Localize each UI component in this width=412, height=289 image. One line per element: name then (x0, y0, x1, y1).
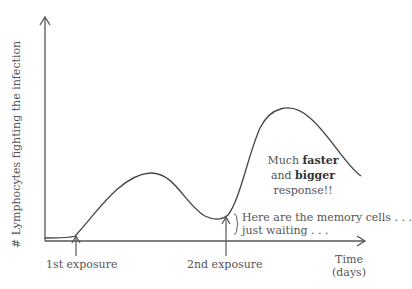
x-axis-label-time: Time (332, 253, 366, 266)
response-text-bigger: bigger (295, 169, 335, 182)
memory-cells-annotation: Here are the memory cells . . . just wai… (242, 211, 412, 237)
first-exposure-label: 1st exposure (46, 258, 117, 271)
second-exposure-label: 2nd exposure (187, 258, 263, 271)
memory-text-line1: Here are the memory cells . . . (242, 211, 412, 224)
y-axis-label: # Lymphocytes fighting the infection (10, 41, 23, 248)
x-axis-label-days: (days) (332, 266, 366, 279)
x-axis-label: Time (days) (332, 253, 366, 279)
memory-text-line2: just waiting . . . (242, 224, 412, 237)
memory-brace (234, 214, 238, 234)
response-text-much: Much (267, 154, 302, 167)
response-text-response: response!! (258, 183, 348, 198)
response-text-and: and (271, 169, 295, 182)
response-annotation: Much faster and bigger response!! (258, 153, 348, 198)
response-text-faster: faster (303, 154, 339, 167)
